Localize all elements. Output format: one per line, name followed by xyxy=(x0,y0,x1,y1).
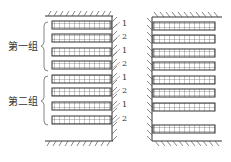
group-1-label: 第一组 xyxy=(8,40,38,52)
bar xyxy=(153,49,215,57)
bar xyxy=(52,34,111,42)
bar xyxy=(52,48,111,56)
bar xyxy=(52,75,111,83)
bar-number: 1 xyxy=(122,73,127,82)
bar xyxy=(153,35,215,43)
bar xyxy=(52,102,111,110)
bar xyxy=(153,89,215,97)
bar xyxy=(52,116,111,124)
diagram-canvas: 第一组 第二组 1 2 1 2 1 2 1 2 xyxy=(0,0,231,162)
bar-number: 2 xyxy=(122,86,127,95)
bar xyxy=(52,21,111,29)
left-panel: 第一组 第二组 1 2 1 2 1 2 1 2 xyxy=(8,11,127,146)
bar xyxy=(153,125,215,133)
right-bars xyxy=(153,22,215,133)
bar xyxy=(153,22,215,30)
left-bottom-support xyxy=(45,141,113,146)
left-top-support xyxy=(45,11,113,16)
bar-number: 1 xyxy=(122,19,127,28)
bar-number: 2 xyxy=(122,59,127,68)
bar-number: 1 xyxy=(122,46,127,55)
bar xyxy=(153,62,215,70)
left-right-wall xyxy=(112,16,117,141)
right-top-support xyxy=(152,12,222,17)
group-2-label: 第二组 xyxy=(8,95,38,107)
bar-number: 2 xyxy=(122,32,127,41)
bar-number: 2 xyxy=(122,114,127,123)
group-2-brace xyxy=(41,76,48,125)
bar xyxy=(153,103,215,111)
bar-number: 1 xyxy=(122,100,127,109)
right-panel xyxy=(147,12,222,146)
left-bars xyxy=(52,21,111,124)
group-1-brace xyxy=(41,22,48,71)
bar xyxy=(52,61,111,69)
bar xyxy=(52,88,111,96)
right-left-wall xyxy=(147,17,152,141)
right-bottom-support xyxy=(152,141,222,146)
bar xyxy=(153,76,215,84)
